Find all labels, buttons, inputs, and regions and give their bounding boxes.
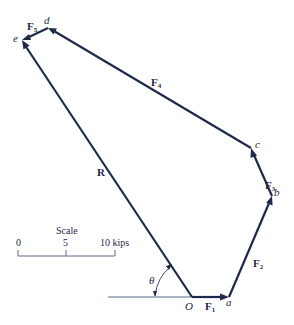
theta-angle-arc: [155, 267, 170, 296]
vector-label-f3: F3: [265, 179, 276, 193]
vector-f2-arrowhead: [266, 196, 272, 206]
vector-label-f4: F4: [151, 76, 162, 90]
scale-tick-label-10: 10 kips: [100, 237, 129, 248]
scale-bar: Scale 0 5 10 kips: [16, 225, 129, 256]
vector-f2: [229, 202, 270, 297]
scale-tick-label-5: 5: [63, 237, 68, 248]
point-label-a: a: [226, 296, 232, 308]
scale-title: Scale: [56, 225, 78, 236]
theta-label: θ: [149, 274, 155, 286]
scale-tick-label-0: 0: [16, 237, 21, 248]
vector-label-f1: F1: [205, 300, 216, 314]
resultant-vector-r: [26, 46, 193, 297]
point-label-c: c: [255, 138, 260, 150]
point-label-e: e: [13, 32, 18, 44]
vector-label-f2: F2: [253, 257, 264, 271]
vector-f5-arrowhead: [22, 34, 31, 40]
force-polygon-diagram: θ O a b c d e F1 F2 F3 F4 F5 R Scale 0 5…: [0, 0, 294, 325]
vector-label-r: R: [97, 166, 106, 178]
theta-arc-arrowhead-bottom: [153, 291, 157, 297]
vector-f4: [54, 31, 251, 148]
vector-label-f5: F5: [27, 20, 38, 34]
point-label-d: d: [44, 14, 50, 26]
point-label-o: O: [185, 300, 193, 312]
